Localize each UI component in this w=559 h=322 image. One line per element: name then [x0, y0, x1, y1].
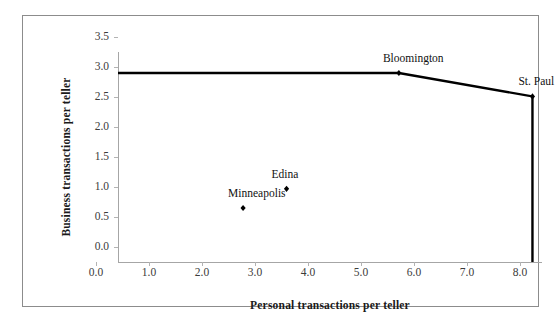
frontier-polyline: [118, 73, 532, 262]
point-label-st-paul: St. Paul: [518, 75, 554, 87]
y-tick-mark: [114, 37, 118, 38]
y-tick-mark: [114, 97, 118, 98]
y-tick-label: 3.0: [75, 61, 109, 73]
y-tick-mark: [114, 217, 118, 218]
y-tick-label: 0.5: [75, 211, 109, 223]
y-tick-label: 2.5: [75, 91, 109, 103]
y-tick-label: 1.0: [75, 181, 109, 193]
y-tick-mark: [114, 67, 118, 68]
x-tick-label: 4.0: [288, 266, 328, 278]
y-tick-mark: [114, 187, 118, 188]
point-label-minneapolis: Minneapolis: [228, 187, 286, 199]
y-axis-line: [118, 52, 119, 263]
x-tick-label: 3.0: [235, 266, 275, 278]
x-tick-label: 1.0: [129, 266, 169, 278]
x-tick-label: 8.0: [500, 266, 540, 278]
x-tick-label: 7.0: [447, 266, 487, 278]
point-label-edina: Edina: [272, 168, 299, 180]
y-tick-label: 3.5: [75, 31, 109, 43]
marker-minneapolis: [240, 205, 245, 211]
y-tick-mark: [114, 247, 118, 248]
marker-st-paul: [530, 93, 535, 99]
y-tick-label: 1.5: [75, 151, 109, 163]
x-axis-title: Personal transactions per teller: [118, 299, 542, 311]
y-tick-mark: [114, 127, 118, 128]
y-tick-label: 2.0: [75, 121, 109, 133]
efficient-frontier-line: [118, 73, 532, 262]
x-tick-label: 0.0: [76, 266, 116, 278]
point-label-bloomington: Bloomington: [383, 52, 444, 64]
x-tick-label: 6.0: [394, 266, 434, 278]
x-tick-label: 5.0: [341, 266, 381, 278]
x-tick-label: 2.0: [182, 266, 222, 278]
x-axis-line: [118, 262, 542, 263]
chart-container: 0.00.51.01.52.02.53.03.5 0.01.02.03.04.0…: [0, 0, 559, 322]
chart-frame: 0.00.51.01.52.02.53.03.5 0.01.02.03.04.0…: [22, 15, 539, 307]
y-axis-title: Business transactions per teller: [60, 52, 72, 262]
y-tick-label: 0.0: [75, 241, 109, 253]
marker-bloomington: [396, 70, 401, 76]
y-tick-mark: [114, 157, 118, 158]
